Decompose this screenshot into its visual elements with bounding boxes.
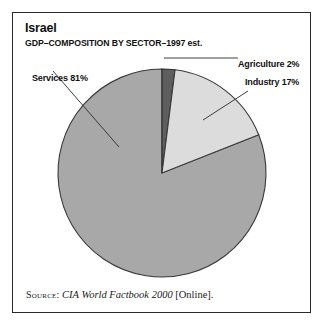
source-suffix: [Online]. [175, 289, 213, 300]
pie-label-industry: Industry 17% [245, 77, 299, 87]
pie-label-agriculture: Agriculture 2% [238, 59, 299, 69]
source-title: CIA World Factbook 2000 [62, 289, 173, 300]
source-line: Source: CIA World Factbook 2000 [Online]… [26, 289, 213, 300]
pie-label-services: Services 81% [32, 73, 88, 83]
figure-frame: Israel GDP–COMPOSITION BY SECTOR–1997 es… [12, 12, 311, 313]
source-label: Source: [26, 289, 59, 300]
